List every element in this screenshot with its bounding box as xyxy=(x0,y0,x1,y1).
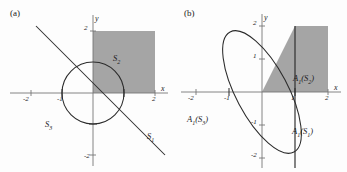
panel-a-y-axis-name: y xyxy=(95,14,99,23)
panel-b-x-axis-name: x xyxy=(334,83,338,92)
label-A1S3: A1(S3) xyxy=(187,114,208,126)
panel-b-xtick-neg2: -2 xyxy=(188,94,194,102)
panel-b-ytick-neg2: -2 xyxy=(251,151,257,159)
panel-b-label: (b) xyxy=(184,8,195,18)
label-S2-sub: 2 xyxy=(117,59,120,65)
label-A1S1-close: ) xyxy=(310,126,313,136)
panel-b-xtick-2: 2 xyxy=(325,94,329,102)
panel-b-y-axis-name: y xyxy=(264,13,268,22)
label-S1: S1 xyxy=(147,131,154,143)
label-S3-sub: 3 xyxy=(49,125,52,131)
label-A1S1: A1(S1) xyxy=(292,126,313,138)
panel-b-canvas xyxy=(173,0,347,172)
panel-b-ytick-1: 1 xyxy=(253,52,257,60)
figure-container: (a) -2 -1 2 2 -2 x y S2 S3 S1 xyxy=(0,0,347,172)
panel-a-ytick-neg2: -2 xyxy=(84,152,90,160)
panel-b-ytick-2: 2 xyxy=(253,19,257,27)
label-A1S3-close: ) xyxy=(205,114,208,124)
panel-a-xtick-neg2: -2 xyxy=(23,95,29,103)
panel-b: (b) -2 -1 1 2 2 1 -1 -2 x y A1(S2) A1(S3… xyxy=(173,0,347,172)
panel-a-ytick-2: 2 xyxy=(84,24,88,32)
panel-a-xtick-2: 2 xyxy=(152,95,156,103)
panel-a: (a) -2 -1 2 2 -2 x y S2 S3 S1 xyxy=(0,0,174,172)
label-S1-sub: 1 xyxy=(151,137,154,143)
label-S3: S3 xyxy=(45,119,52,131)
panel-b-ytick-neg1: -1 xyxy=(251,118,257,126)
label-A1S2-close: ) xyxy=(311,73,314,83)
panel-b-xtick-1: 1 xyxy=(291,94,295,102)
panel-a-label: (a) xyxy=(10,8,20,18)
panel-a-xtick-neg1: -1 xyxy=(57,95,63,103)
label-S2: S2 xyxy=(113,53,120,65)
panel-a-x-axis-name: x xyxy=(161,84,165,93)
panel-b-xtick-neg1: -1 xyxy=(224,94,230,102)
label-A1S2: A1(S2) xyxy=(293,73,314,85)
shaded-square-S2 xyxy=(93,31,155,93)
